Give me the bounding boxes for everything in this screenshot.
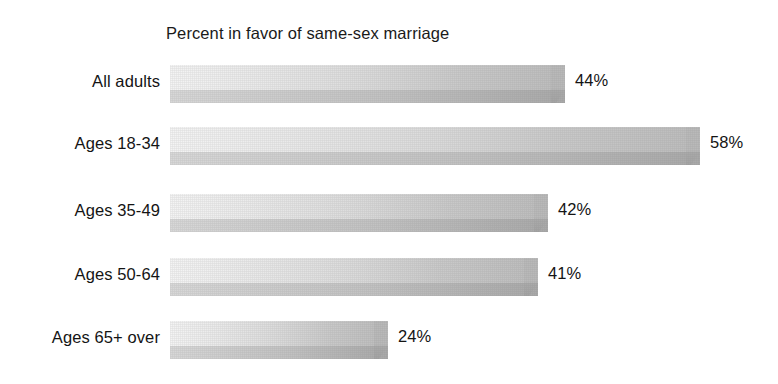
value-label: 58% — [710, 133, 743, 152]
bar-top-face — [170, 127, 700, 152]
bar-all-adults — [170, 65, 565, 103]
bar-front-face — [170, 346, 388, 359]
category-label: Ages 18-34 — [0, 134, 160, 153]
bar-ages-18-34 — [170, 127, 700, 165]
bar-front-face — [170, 219, 548, 232]
bar-top-face — [170, 321, 388, 346]
bar-top-face — [170, 194, 548, 219]
value-label: 24% — [398, 327, 431, 346]
value-label: 42% — [558, 200, 591, 219]
bar-front-face — [170, 283, 538, 296]
bar-ages-35-49 — [170, 194, 548, 232]
bar-ages-65-over — [170, 321, 388, 359]
chart-title: Percent in favor of same-sex marriage — [166, 24, 449, 43]
category-label: Ages 50-64 — [0, 265, 160, 284]
bar-front-face — [170, 90, 565, 103]
bar-row: Ages 18-34 58% — [0, 127, 778, 167]
value-label: 41% — [548, 264, 581, 283]
bar-row: Ages 35-49 42% — [0, 194, 778, 234]
bar-front-face — [170, 152, 700, 165]
category-label: Ages 65+ over — [0, 328, 160, 347]
bar-ages-50-64 — [170, 258, 538, 296]
bar-top-face — [170, 65, 565, 90]
bar-row: All adults 44% — [0, 65, 778, 105]
bar-row: Ages 65+ over 24% — [0, 321, 778, 361]
bar-row: Ages 50-64 41% — [0, 258, 778, 298]
bar-top-face — [170, 258, 538, 283]
category-label: All adults — [0, 72, 160, 91]
bar-chart: Percent in favor of same-sex marriage Al… — [0, 0, 778, 384]
category-label: Ages 35-49 — [0, 201, 160, 220]
value-label: 44% — [575, 71, 608, 90]
